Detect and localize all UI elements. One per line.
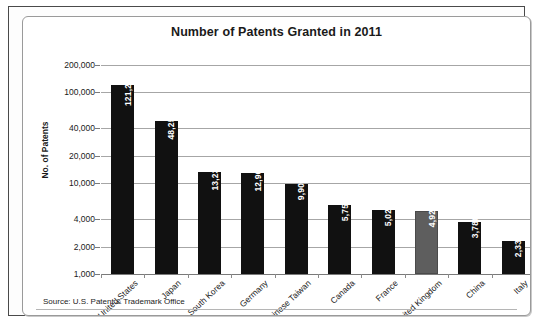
bar: 12,968 [241, 173, 264, 274]
bar-value-label: 3,786 [470, 215, 480, 237]
y-axis-tick-label: 10,000 [33, 178, 95, 188]
x-axis-category-label: United Kingdom [392, 278, 443, 316]
chart-panel: Number of Patents Granted in 2011 No. of… [22, 16, 531, 316]
bar: 9,907 [285, 184, 308, 274]
bar: 3,786 [458, 222, 481, 275]
y-axis-tick-label: 20,000 [33, 151, 95, 161]
y-axis-tick-label: 40,000 [33, 123, 95, 133]
bar: 48,256 [155, 121, 178, 274]
y-axis-tick [95, 156, 100, 157]
y-axis-tick [95, 65, 100, 66]
bar: 121,261 [111, 85, 134, 274]
bar-value-label: 5,754 [340, 199, 350, 221]
bar-value-label: 4,924 [427, 205, 437, 227]
bar-value-label: 5,022 [383, 204, 393, 226]
x-axis-category-label: France [374, 278, 400, 303]
figure-outer-frame: Number of Patents Granted in 2011 No. of… [8, 6, 525, 316]
y-axis-tick-label: 4,000 [33, 214, 95, 224]
bar: 13,239 [198, 172, 221, 274]
x-axis-category-label: South Korea [185, 278, 226, 316]
gridline [101, 65, 531, 66]
bar: 5,754 [328, 205, 351, 274]
gridline [101, 92, 531, 93]
x-axis-category-label: Chinese Taiwan [263, 278, 314, 316]
y-axis-tick-label: 100,000 [33, 87, 95, 97]
y-axis-tick [95, 92, 100, 93]
x-axis-category-label: Canada [328, 278, 357, 306]
y-axis-tick [95, 274, 100, 275]
y-axis-tick [95, 128, 100, 129]
bar-value-label: 13,239 [210, 164, 220, 191]
chart-title: Number of Patents Granted in 2011 [23, 25, 530, 39]
bar-value-label: 121,261 [123, 74, 133, 106]
y-axis-tick-label: 2,000 [33, 242, 95, 252]
plot-area: 121,26148,25613,23912,9689,9075,7545,022… [101, 65, 531, 274]
bar: 4,924 [415, 211, 438, 274]
y-axis-tick [95, 247, 100, 248]
bar-value-label: 2,333 [513, 234, 523, 256]
y-axis-tick-labels: 200,000100,00040,00020,00010,0004,0002,0… [31, 65, 95, 274]
y-axis-tick [95, 183, 100, 184]
y-axis-tick-label: 1,000 [33, 269, 95, 279]
y-axis-tick [95, 219, 100, 220]
source-note: Source: U.S. Patent & Trademark Office [43, 297, 185, 306]
bar-value-label: 12,968 [253, 164, 263, 191]
x-axis-category-label: Germany [237, 278, 269, 309]
y-axis-tick-label: 200,000 [33, 60, 95, 70]
x-axis-category-label: China [464, 278, 487, 300]
bar-value-label: 48,256 [166, 112, 176, 139]
bar: 5,022 [372, 210, 395, 274]
x-axis-category-label: Italy [512, 278, 530, 296]
bar: 2,333 [502, 241, 525, 274]
bar-value-label: 9,907 [296, 177, 306, 199]
source-divider [36, 309, 517, 310]
